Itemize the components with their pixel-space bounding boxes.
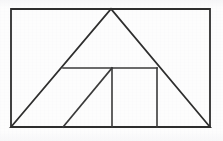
inner-diagonal-line — [63, 68, 112, 127]
figure-svg — [0, 0, 223, 141]
geometric-figure-canvas — [0, 0, 223, 141]
